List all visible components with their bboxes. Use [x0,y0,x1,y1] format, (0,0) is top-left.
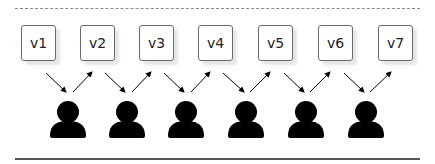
arrow-icon [132,72,151,92]
arrow-icon [105,73,125,92]
user-icon [109,101,145,138]
arrow-icon [164,73,184,92]
arrow-icon [191,72,210,92]
arrow-icon [310,72,330,92]
bottom-divider [15,158,420,160]
user-icon [168,101,204,138]
diagram-canvas [0,0,435,164]
arrow-icon [250,72,270,92]
arrow-icon [223,73,244,92]
user-icon [50,101,86,138]
arrow-icon [344,73,364,92]
arrow-icon [73,72,92,92]
user-icon [288,101,324,138]
arrow-icon [46,73,66,92]
arrow-icon [370,72,391,92]
arrows [46,72,391,92]
user-icon [228,101,264,138]
arrow-icon [284,73,304,92]
user-icon [348,101,384,138]
